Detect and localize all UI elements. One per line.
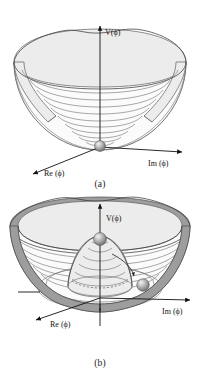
im-axis-a [100,147,182,152]
re-axis-label-b: Re (ϕ) [50,320,71,329]
higgs-potential-figure: V(ϕ) Im (ϕ) Re (ϕ) (a) [0,0,200,384]
re-axis-label-a: Re (ϕ) [44,169,65,178]
panel-b-drawing: V(ϕ) Im (ϕ) Re (ϕ) [0,180,200,358]
v-axis-label-a: V(ϕ) [105,28,121,37]
im-axis-label-a: Im (ϕ) [148,159,169,168]
ball-in-valley [137,279,149,291]
panel-a-drawing: V(ϕ) Im (ϕ) Re (ϕ) [0,0,200,180]
panel-a-symmetric-potential: V(ϕ) Im (ϕ) Re (ϕ) (a) [0,0,200,180]
panel-b-mexican-hat-potential: V(ϕ) Im (ϕ) Re (ϕ) (b) [0,180,200,358]
panel-b-caption: (b) [0,357,200,371]
v-axis-label-b: V(ϕ) [106,214,122,223]
im-axis-label-b: Im (ϕ) [162,307,183,316]
ball-at-origin [95,141,106,152]
ball-on-central-bump [94,233,107,246]
